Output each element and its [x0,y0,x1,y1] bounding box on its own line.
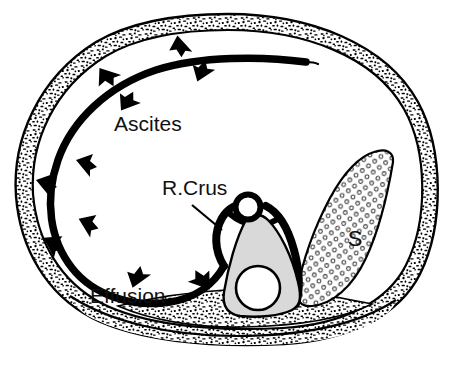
spleen [298,150,394,306]
spleen-body [298,150,394,306]
spleen-label: S [348,226,363,251]
aorta [236,195,261,220]
ascites-arrow-lower [76,213,100,239]
ascites-label: Ascites [114,112,182,135]
anatomy-diagram: S [0,0,456,366]
effusion-label: Effusion [90,284,166,307]
figure-root: S [0,0,456,366]
rcrus-label: R.Crus [162,176,227,199]
effusion-arrow-top [169,35,195,59]
ascites-arrows [76,59,216,289]
rcrus-leader-line [192,205,222,230]
ascites-arrow-mid [76,154,97,177]
spinal-canal [236,266,280,310]
